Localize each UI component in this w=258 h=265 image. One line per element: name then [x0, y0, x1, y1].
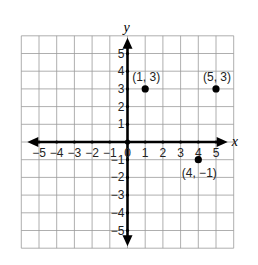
- x-tick-label: 1: [142, 146, 149, 160]
- x-tick-label: 2: [160, 146, 167, 160]
- y-tick-label: 1: [118, 117, 125, 131]
- x-tick-label: 0: [124, 146, 131, 160]
- x-tick-mark: [179, 140, 182, 143]
- y-tick-label: 5: [118, 47, 125, 61]
- y-tick-mark: [126, 105, 129, 108]
- y-axis-label: y: [122, 20, 131, 35]
- x-tick-mark: [214, 140, 217, 143]
- y-tick-mark: [126, 70, 129, 73]
- x-tick-mark: [37, 140, 40, 143]
- x-tick-mark: [197, 140, 200, 143]
- y-tick-label: 2: [118, 100, 125, 114]
- x-tick-label: 3: [177, 146, 184, 160]
- y-tick-mark: [126, 123, 129, 126]
- x-axis-label: x: [231, 134, 239, 149]
- y-tick-label: −1: [111, 153, 125, 167]
- x-tick-mark: [73, 140, 76, 143]
- x-tick-label: −3: [68, 146, 82, 160]
- y-tick-label: 3: [118, 82, 125, 96]
- x-tick-mark: [108, 140, 111, 143]
- coordinate-plane: −5−4−3−2−1012345−5−4−3−2−112345 (1, 3)(5…: [0, 0, 258, 265]
- data-point: [195, 156, 202, 163]
- y-tick-label: −3: [111, 188, 125, 202]
- y-tick-label: −2: [111, 170, 125, 184]
- y-tick-mark: [126, 194, 129, 197]
- y-tick-mark: [126, 176, 129, 179]
- x-tick-mark: [144, 140, 147, 143]
- y-tick-mark: [126, 229, 129, 232]
- x-tick-label: −5: [32, 146, 46, 160]
- x-tick-mark: [55, 140, 58, 143]
- x-tick-mark: [91, 140, 94, 143]
- x-tick-mark: [161, 140, 164, 143]
- y-tick-label: 4: [118, 64, 125, 78]
- x-tick-label: −4: [50, 146, 64, 160]
- y-tick-label: −5: [111, 224, 125, 238]
- data-point-label: (4, −1): [182, 166, 217, 180]
- y-tick-mark: [126, 87, 129, 90]
- y-tick-mark: [126, 158, 129, 161]
- y-tick-mark: [126, 211, 129, 214]
- x-tick-label: −2: [85, 146, 99, 160]
- x-tick-label: 5: [213, 146, 220, 160]
- data-point: [212, 85, 219, 92]
- data-point-label: (1, 3): [132, 70, 160, 84]
- y-tick-mark: [126, 52, 129, 55]
- data-point-label: (5, 3): [203, 70, 231, 84]
- origin-dot: [125, 139, 130, 144]
- data-point: [142, 85, 149, 92]
- y-tick-label: −4: [111, 206, 125, 220]
